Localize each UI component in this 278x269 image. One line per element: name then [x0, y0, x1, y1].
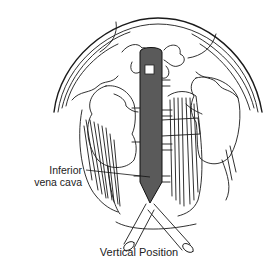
left-adrenal [164, 45, 184, 66]
left-renal-vein [162, 118, 200, 136]
label-line-2: vena cava [22, 176, 82, 188]
figure-caption: Vertical Position [0, 246, 278, 258]
inferior-vena-cava-label: Inferior vena cava [22, 164, 82, 188]
left-psoas [168, 92, 236, 217]
label-line-1: Inferior [22, 164, 82, 176]
ivc-opening [145, 65, 154, 74]
left-kidney [186, 77, 240, 164]
anatomy-diagram [0, 0, 278, 269]
